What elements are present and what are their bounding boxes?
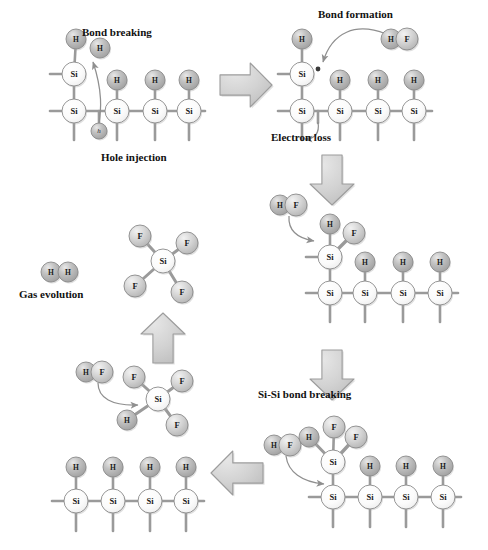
atom-si: Si	[101, 489, 126, 514]
svg-text:H: H	[306, 433, 312, 442]
atom-h: H	[360, 456, 381, 477]
atom-si: Si	[105, 99, 130, 124]
svg-text:Si: Si	[298, 69, 306, 79]
svg-text:Si: Si	[159, 256, 167, 266]
atom-si: Si	[174, 489, 199, 514]
svg-text:H: H	[403, 462, 409, 471]
atom-si: Si	[358, 485, 383, 510]
svg-text:H: H	[152, 76, 158, 85]
atom-si: Si	[318, 281, 343, 306]
svg-text:Si: Si	[361, 288, 369, 298]
svg-text:Si: Si	[298, 106, 306, 116]
atom-h: H	[330, 70, 351, 91]
svg-text:Si: Si	[336, 106, 344, 116]
atom-si: Si	[428, 281, 453, 306]
atom-f: F	[176, 232, 199, 255]
svg-text:F: F	[132, 281, 137, 291]
svg-text:Si: Si	[374, 106, 382, 116]
label-gas-evolution: Gas evolution	[19, 288, 83, 300]
atom-h: H	[117, 410, 138, 431]
atom-si: Si	[431, 485, 456, 510]
svg-text:Si: Si	[329, 457, 337, 467]
svg-text:Si: Si	[399, 288, 407, 298]
atom-h: H	[107, 70, 128, 91]
svg-text:h: h	[97, 127, 101, 135]
svg-text:Si: Si	[72, 496, 80, 506]
svg-text:H: H	[437, 258, 443, 267]
svg-text:Si: Si	[151, 106, 159, 116]
svg-text:Si: Si	[185, 106, 193, 116]
atom-h: H	[90, 38, 111, 59]
svg-text:Si: Si	[329, 492, 337, 502]
atom-h: H	[396, 456, 417, 477]
atom-si: Si	[318, 245, 343, 270]
svg-text:H: H	[114, 76, 120, 85]
atom-h: H	[58, 262, 79, 283]
atom-f: F	[171, 281, 194, 304]
svg-text:H: H	[362, 258, 368, 267]
svg-text:F: F	[331, 422, 336, 432]
svg-text:H: H	[299, 35, 305, 44]
svg-text:H: H	[147, 463, 153, 472]
atom-h: H	[368, 70, 389, 91]
atom-h: H	[355, 252, 376, 273]
atom-f: F	[285, 194, 308, 217]
atom-si: Si	[394, 485, 419, 510]
svg-text:H: H	[367, 462, 373, 471]
atom-si: Si	[353, 281, 378, 306]
label-bond-breaking: Bond breaking	[82, 26, 152, 38]
atom-h: H	[179, 70, 200, 91]
atom-h: H	[320, 214, 341, 235]
svg-text:Si: Si	[154, 394, 162, 404]
svg-text:H: H	[337, 76, 343, 85]
figure-canvas: HHSiSiHSiHSiHSihHSiSiHSiHSiHSiHFHFHFSiSi…	[0, 0, 488, 550]
atom-si: Si	[177, 99, 202, 124]
atom-f: F	[91, 361, 114, 384]
atom-si: Si	[328, 99, 353, 124]
atom-f: F	[124, 275, 147, 298]
svg-text:H: H	[83, 368, 89, 377]
atom-si: Si	[391, 281, 416, 306]
atom-h: H	[430, 252, 451, 273]
arrow-step2-to-step3	[310, 155, 356, 207]
svg-text:H: H	[411, 76, 417, 85]
atom-h: H	[176, 457, 197, 478]
svg-text:Si: Si	[113, 106, 121, 116]
label-electron-loss: Electron loss	[271, 131, 332, 143]
atom-h: H	[145, 70, 166, 91]
atom-f: F	[129, 225, 152, 248]
svg-text:H: H	[388, 35, 394, 44]
atom-f: F	[323, 416, 346, 439]
svg-text:H: H	[186, 76, 192, 85]
svg-text:H: H	[400, 258, 406, 267]
svg-text:Si: Si	[109, 496, 117, 506]
atom-f: F	[171, 370, 194, 393]
svg-text:F: F	[99, 367, 104, 377]
label-si-si-bond-breaking: Si-Si bond breaking	[258, 388, 352, 400]
atom-si: Si	[143, 99, 168, 124]
atom-si: Si	[62, 99, 87, 124]
svg-text:H: H	[183, 463, 189, 472]
svg-text:F: F	[179, 376, 184, 386]
svg-text:F: F	[137, 231, 142, 241]
atom-h: H	[404, 70, 425, 91]
svg-text:Si: Si	[402, 492, 410, 502]
svg-text:Si: Si	[439, 492, 447, 502]
atom-h: H	[140, 457, 161, 478]
atom-si: Si	[290, 62, 315, 87]
atom-h: H	[66, 457, 87, 478]
atom-f: F	[123, 366, 146, 389]
atom-si: Si	[321, 450, 346, 475]
svg-text:F: F	[404, 34, 409, 44]
svg-text:H: H	[375, 76, 381, 85]
svg-text:H: H	[327, 220, 333, 229]
svg-text:Si: Si	[70, 106, 78, 116]
atom-si: Si	[64, 489, 89, 514]
svg-text:H: H	[110, 463, 116, 472]
svg-text:F: F	[184, 238, 189, 248]
label-hole-injection: Hole injection	[101, 151, 167, 163]
svg-text:H: H	[73, 35, 79, 44]
arrow-step5-to-step6	[141, 313, 187, 365]
svg-text:Si: Si	[436, 288, 444, 298]
atom-si: Si	[290, 99, 315, 124]
